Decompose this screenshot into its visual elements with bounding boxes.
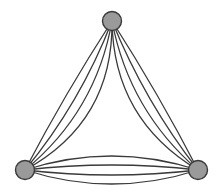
graph-canvas [0,0,220,194]
edge-top-bottom-right-1 [112,21,198,170]
node-top [103,12,122,31]
edge-layer [25,21,198,184]
edge-top-bottom-left-1 [25,21,112,170]
edge-top-bottom-left-3 [25,21,112,170]
edge-top-bottom-right-3 [112,21,198,170]
node-bottom-left [16,161,35,180]
edge-top-bottom-left-2 [25,21,112,170]
node-bottom-right [189,161,208,180]
multigraph-diagram [0,0,220,194]
edge-bottom-left-bottom-right-2 [25,165,198,170]
edge-top-bottom-right-2 [112,21,198,170]
edge-top-bottom-left-4 [25,21,112,170]
edge-bottom-left-bottom-right-3 [25,170,198,175]
edge-top-bottom-right-4 [112,21,198,170]
